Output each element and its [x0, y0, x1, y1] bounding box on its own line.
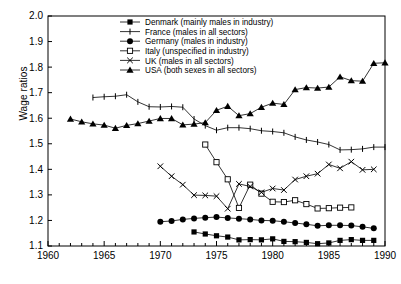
data-point — [304, 201, 309, 206]
data-point — [180, 216, 186, 222]
data-point — [348, 223, 354, 229]
data-point — [303, 84, 310, 90]
data-point — [337, 205, 342, 210]
data-point — [169, 218, 175, 224]
data-point — [127, 48, 132, 53]
series-denmark — [191, 229, 376, 246]
y-tick-label: 2.0 — [29, 10, 43, 21]
data-point — [270, 236, 275, 241]
series-italy — [203, 142, 354, 211]
data-point — [315, 241, 320, 246]
data-point — [247, 216, 253, 222]
series-line — [160, 162, 373, 209]
data-point — [224, 103, 231, 109]
legend-label: Italy (unspecified in industry) — [145, 47, 249, 56]
y-tick-label: 1.5 — [29, 138, 43, 149]
data-point — [293, 239, 298, 244]
data-point — [203, 231, 208, 236]
data-point — [326, 222, 332, 228]
legend-label: Denmark (mainly males in industry) — [145, 18, 274, 27]
data-point — [315, 171, 321, 177]
data-point — [315, 223, 321, 229]
legend-label: Germany (males in industry) — [145, 37, 248, 46]
data-point — [281, 239, 286, 244]
y-tick-label: 1.7 — [29, 87, 43, 98]
data-point — [326, 206, 331, 211]
data-point — [157, 219, 163, 225]
y-tick-label: 1.4 — [29, 164, 43, 175]
data-point — [349, 237, 354, 242]
data-point — [67, 116, 74, 122]
data-point — [371, 238, 376, 243]
data-point — [360, 238, 365, 243]
x-tick-label: 1980 — [262, 250, 285, 261]
y-tick-label: 1.2 — [29, 215, 43, 226]
data-point — [169, 173, 175, 179]
data-point — [269, 100, 276, 106]
data-point — [349, 205, 354, 210]
legend-label: UK (males in all sectors) — [145, 57, 234, 66]
data-point — [371, 225, 377, 231]
data-point — [304, 240, 309, 245]
data-point — [281, 199, 286, 204]
data-point — [336, 73, 343, 79]
data-point — [315, 206, 320, 211]
series-uk — [158, 159, 377, 212]
data-point — [214, 160, 219, 165]
data-point — [225, 177, 230, 182]
data-point — [270, 218, 276, 224]
data-point — [225, 234, 230, 239]
x-tick-label: 1990 — [374, 250, 397, 261]
data-point — [127, 38, 133, 44]
x-tick-label: 1960 — [37, 250, 60, 261]
data-point — [293, 198, 298, 203]
data-point — [337, 166, 343, 172]
data-point — [203, 142, 208, 147]
x-tick-label: 1970 — [149, 250, 172, 261]
data-point — [258, 104, 265, 110]
data-point — [381, 59, 388, 65]
y-tick-label: 1.6 — [29, 113, 43, 124]
data-point — [225, 206, 231, 212]
data-point — [349, 159, 355, 165]
legend-label: USA (both sexes in all sectors) — [145, 66, 257, 75]
data-point — [127, 19, 132, 24]
data-point — [348, 77, 355, 83]
data-point — [236, 237, 241, 242]
data-point — [191, 215, 197, 221]
data-point — [304, 173, 310, 179]
wage-ratios-chart: Wage ratios 1.11.21.31.41.51.61.71.81.92… — [0, 0, 401, 284]
x-tick-label: 1985 — [318, 250, 341, 261]
series-germany — [157, 214, 376, 231]
legend: Denmark (mainly males in industry)France… — [120, 18, 274, 75]
data-point — [292, 220, 298, 226]
data-point — [303, 221, 309, 227]
data-point — [360, 224, 366, 230]
data-point — [236, 216, 242, 222]
data-point — [337, 222, 343, 228]
data-point — [236, 205, 241, 210]
data-point — [337, 238, 342, 243]
data-point — [259, 237, 264, 242]
y-tick-label: 1.9 — [29, 36, 43, 47]
x-tick-label: 1975 — [205, 250, 228, 261]
y-tick-label: 1.3 — [29, 189, 43, 200]
data-point — [326, 162, 332, 168]
data-point — [202, 215, 208, 221]
data-point — [180, 182, 186, 188]
data-point — [214, 214, 220, 220]
data-point — [191, 229, 196, 234]
data-point — [270, 199, 275, 204]
data-point — [292, 177, 298, 183]
data-point — [214, 233, 219, 238]
legend-label: France (males in all sectors) — [145, 28, 248, 37]
x-tick-label: 1965 — [93, 250, 116, 261]
data-point — [225, 215, 231, 221]
data-point — [258, 217, 264, 223]
data-point — [326, 240, 331, 245]
data-point — [281, 219, 287, 225]
data-point — [213, 107, 220, 113]
data-point — [247, 110, 254, 116]
data-point — [158, 163, 164, 169]
data-point — [248, 237, 253, 242]
